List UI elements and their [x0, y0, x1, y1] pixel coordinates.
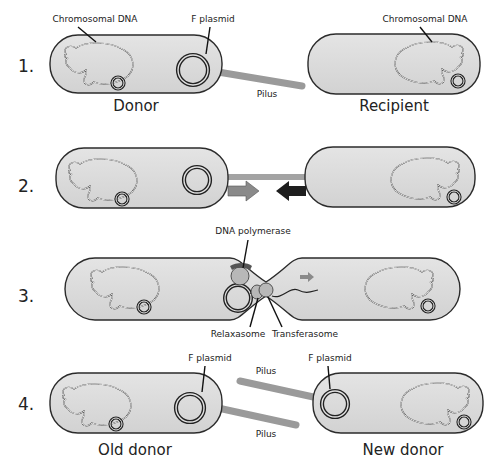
- label-recipient: Recipient: [359, 97, 429, 115]
- step-2: 2.: [18, 147, 475, 208]
- pilus: [218, 72, 302, 86]
- label-relaxasome: Relaxasome: [211, 329, 266, 339]
- step-3: 3. DNA polym: [18, 226, 460, 339]
- pilus: [218, 408, 296, 425]
- label-chromosomal-dna: Chromosomal DNA: [53, 14, 139, 24]
- conjugation-diagram: 1. Chromosomal DNA F plasmid Pilu: [0, 0, 497, 464]
- step-number: 4.: [18, 394, 34, 414]
- label-pilus: Pilus: [256, 366, 277, 376]
- arrow-left-icon: [276, 181, 306, 201]
- transferasome: [259, 283, 273, 297]
- pilus: [222, 174, 312, 180]
- donor-cell: [56, 148, 228, 208]
- arrow-right-icon: [228, 181, 259, 201]
- label-f-plasmid: F plasmid: [308, 353, 351, 363]
- label-chromosomal-dna: Chromosomal DNA: [383, 14, 469, 24]
- old-donor-cell: [50, 373, 222, 433]
- label-pilus: Pilus: [256, 429, 277, 439]
- label-f-plasmid: F plasmid: [188, 353, 231, 363]
- pilus: [240, 381, 318, 398]
- label-f-plasmid: F plasmid: [191, 14, 234, 24]
- step-4: 4. F plasmid: [18, 353, 483, 459]
- label-old-donor: Old donor: [98, 441, 173, 459]
- step-1: 1. Chromosomal DNA F plasmid Pilu: [18, 14, 480, 115]
- label-new-donor: New donor: [362, 441, 444, 459]
- dna-polymerase: [231, 267, 249, 285]
- label-donor: Donor: [113, 97, 159, 115]
- step-number: 2.: [18, 176, 34, 196]
- label-transferasome: Transferasome: [271, 329, 339, 339]
- step-number: 3.: [18, 286, 34, 306]
- step-number: 1.: [18, 56, 34, 76]
- label-pilus: Pilus: [257, 89, 278, 99]
- label-dna-polymerase: DNA polymerase: [215, 226, 291, 236]
